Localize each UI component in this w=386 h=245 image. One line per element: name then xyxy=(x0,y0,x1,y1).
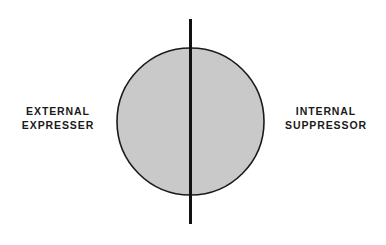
diagram-canvas: EXTERNAL EXPRESSER INTERNAL SUPPRESSOR xyxy=(0,0,386,245)
label-internal-suppressor-line2: SUPPRESSOR xyxy=(276,119,376,133)
label-external-expresser-line2: EXPRESSER xyxy=(8,119,108,133)
label-internal-suppressor: INTERNAL SUPPRESSOR xyxy=(276,105,376,132)
label-internal-suppressor-line1: INTERNAL xyxy=(276,105,376,119)
label-external-expresser: EXTERNAL EXPRESSER xyxy=(8,105,108,132)
label-external-expresser-line1: EXTERNAL xyxy=(8,105,108,119)
